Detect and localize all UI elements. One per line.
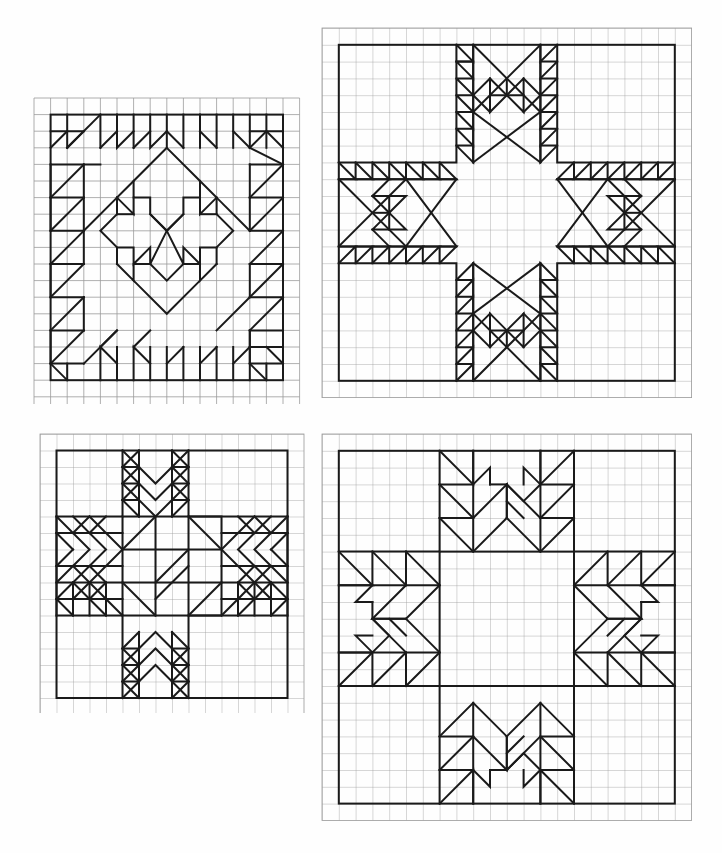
page-canvas bbox=[0, 0, 722, 853]
quilt-block-bottom-left[interactable] bbox=[34, 428, 309, 713]
quilt-block-top-right[interactable] bbox=[316, 22, 706, 412]
quilt-block-top-left[interactable] bbox=[28, 92, 308, 412]
quilt-block-bottom-left-svg bbox=[34, 428, 309, 713]
quilt-block-bottom-right[interactable] bbox=[316, 428, 706, 828]
quilt-block-top-right-svg bbox=[316, 22, 706, 412]
quilt-block-bottom-right-svg bbox=[316, 428, 706, 828]
quilt-block-top-left-svg bbox=[28, 92, 308, 412]
